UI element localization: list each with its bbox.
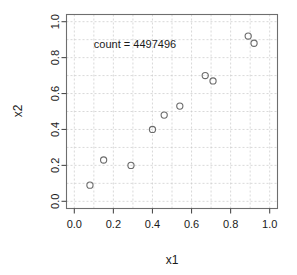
y-tick-label: 0.0 xyxy=(50,194,62,209)
x-axis-title: x1 xyxy=(166,253,179,267)
data-point xyxy=(87,182,93,188)
x-tick-label: 0.0 xyxy=(67,218,82,230)
x-tick-label: 0.2 xyxy=(106,218,121,230)
y-tick-label: 1.0 xyxy=(50,14,62,29)
y-tick-label: 0.2 xyxy=(50,158,62,173)
x-tick-label: 0.4 xyxy=(145,218,160,230)
data-point xyxy=(177,103,183,109)
y-tick-label: 0.6 xyxy=(50,86,62,101)
y-axis-ticks xyxy=(62,22,67,202)
data-point xyxy=(251,40,257,46)
y-axis-tick-labels: 0.00.20.40.60.81.0 xyxy=(50,14,62,209)
x-tick-label: 0.8 xyxy=(223,218,238,230)
data-point xyxy=(161,112,167,118)
x-tick-label: 1.0 xyxy=(262,218,277,230)
plot-canvas: 0.00.20.40.60.81.0 0.00.20.40.60.81.0 co… xyxy=(0,0,297,275)
y-tick-label: 0.4 xyxy=(50,122,62,137)
data-point xyxy=(210,78,216,84)
x-axis-tick-labels: 0.00.20.40.60.81.0 xyxy=(67,218,278,230)
y-tick-label: 0.8 xyxy=(50,50,62,65)
x-tick-label: 0.6 xyxy=(184,218,199,230)
count-annotation: count = 4497496 xyxy=(94,38,176,50)
y-axis-title: x2 xyxy=(11,104,25,117)
data-point xyxy=(101,157,107,163)
x-axis-ticks xyxy=(74,209,269,214)
scatter-plot-figure: 0.00.20.40.60.81.0 0.00.20.40.60.81.0 co… xyxy=(0,0,297,275)
